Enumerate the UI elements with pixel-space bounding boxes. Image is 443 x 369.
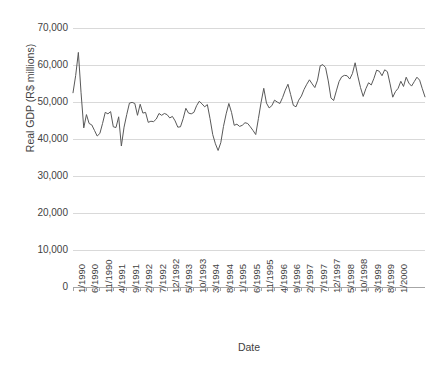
- x-tick-label: 5/1998: [346, 264, 356, 293]
- x-tick-label: 10/1993: [198, 259, 208, 293]
- x-tick-label: 9/1991: [131, 264, 141, 293]
- x-tick-label: 12/1997: [332, 259, 342, 293]
- x-tick-label: 11/1995: [265, 259, 275, 293]
- x-tick-label: 11/1990: [104, 259, 114, 293]
- x-axis-tick-labels: 1/19906/199011/19904/19919/19912/19927/1…: [0, 0, 443, 369]
- x-tick-label: 3/1994: [211, 264, 221, 293]
- x-tick-label: 10/1998: [359, 259, 369, 293]
- x-tick-label: 5/1993: [184, 264, 194, 293]
- x-tick-label: 2/1992: [144, 264, 154, 293]
- x-tick-label: 4/1996: [279, 264, 289, 293]
- x-tick-label: 8/1994: [225, 264, 235, 293]
- x-tick-label: 12/1992: [171, 259, 181, 293]
- x-tick-label: 6/1990: [90, 264, 100, 293]
- x-tick-label: 1/1995: [238, 264, 248, 293]
- x-tick-label: 1/1990: [77, 264, 87, 293]
- chart-container: Real GDP (R$ millions) 010,00020,00030,0…: [0, 0, 443, 369]
- x-tick-label: 2/1997: [305, 264, 315, 293]
- x-tick-label: 7/1997: [319, 264, 329, 293]
- x-tick-label: 4/1991: [117, 264, 127, 293]
- x-tick-label: 1/2000: [399, 264, 409, 293]
- x-tick-label: 7/1992: [158, 264, 168, 293]
- x-tick-label: 6/1995: [252, 264, 262, 293]
- x-tick-label: 8/1999: [386, 264, 396, 293]
- x-tick-label: 9/1996: [292, 264, 302, 293]
- x-tick-label: 3/1999: [373, 264, 383, 293]
- x-axis-title: Date: [73, 341, 425, 353]
